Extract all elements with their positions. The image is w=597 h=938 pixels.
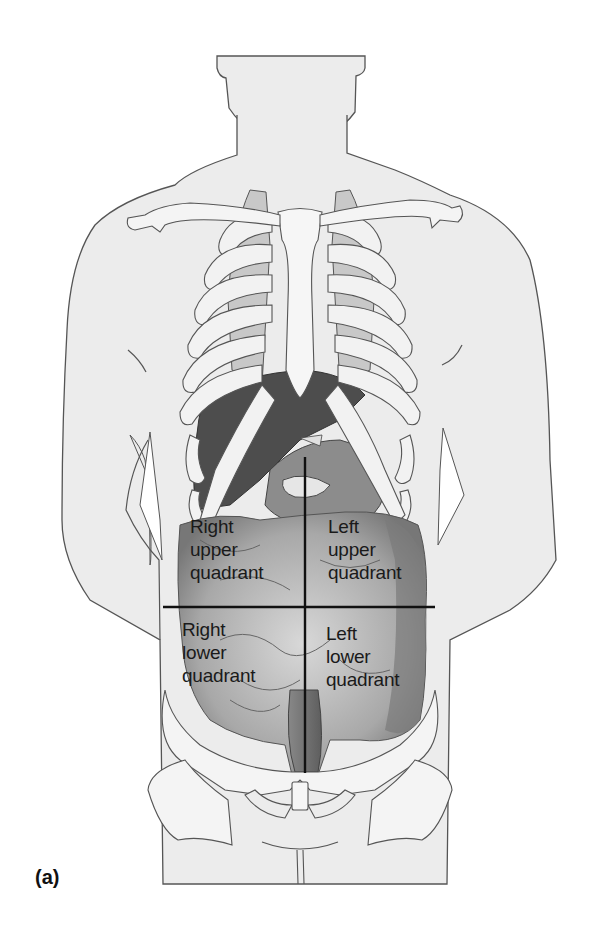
label-right-upper-quadrant: Right upper quadrant — [190, 515, 263, 584]
abdominal-quadrants-figure: Right upper quadrant Left upper quadrant… — [0, 0, 597, 938]
panel-label: (a) — [35, 866, 59, 889]
torso-illustration — [0, 0, 597, 938]
label-left-lower-quadrant: Left lower quadrant — [326, 622, 399, 691]
label-left-upper-quadrant: Left upper quadrant — [328, 515, 401, 584]
label-right-lower-quadrant: Right lower quadrant — [182, 618, 255, 687]
